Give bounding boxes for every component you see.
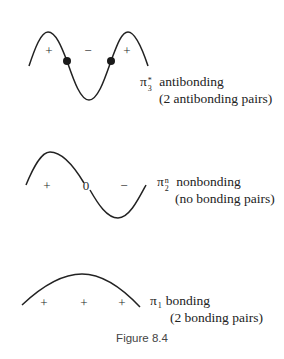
pi1-subscript: 1 (158, 301, 162, 310)
pi1-bonding-wave: + + + (22, 274, 140, 310)
pi1-note: (2 bonding pairs) (170, 310, 263, 326)
pi1-label: π1bonding (150, 293, 210, 311)
pi1-sign-3: + (118, 295, 125, 310)
pi3-sign-3: + (123, 43, 130, 58)
pi3-antibonding-wave: + − + (29, 32, 148, 100)
orbital-diagram: + − + + 0 − + + + (0, 0, 284, 359)
pi3-type-label: antibonding (159, 74, 224, 89)
pi2-subscript: 2 (165, 181, 169, 197)
pi1-sign-2: + (80, 295, 87, 310)
pi2-nonbonding-wave: + 0 − (26, 152, 146, 218)
pi2-sign-3: − (120, 178, 127, 193)
pi2-indices: n2 (164, 174, 173, 190)
pi2-symbol: π (157, 174, 164, 189)
pi3-sign-2: − (84, 43, 91, 58)
pi2-label: πn2 nonbonding (157, 174, 241, 190)
pi3-symbol: π (140, 74, 147, 89)
pi1-sign-1: + (40, 295, 47, 310)
pi2-sign-2: 0 (83, 178, 90, 193)
pi3-node-dot-1 (63, 57, 71, 65)
pi3-note: (2 antibonding pairs) (159, 91, 272, 107)
pi1-type-label: bonding (166, 293, 210, 308)
pi1-symbol: π (150, 293, 157, 308)
pi3-sign-1: + (45, 43, 52, 58)
pi3-node-dot-2 (107, 57, 115, 65)
pi3-indices: *3 (147, 74, 156, 90)
pi2-type-label: nonbonding (176, 174, 241, 189)
pi3-label: π*3 antibonding (140, 74, 224, 90)
figure-caption: Figure 8.4 (0, 332, 284, 344)
pi2-note: (no bonding pairs) (175, 191, 275, 207)
pi2-sign-1: + (43, 178, 50, 193)
pi3-subscript: 3 (148, 81, 152, 97)
